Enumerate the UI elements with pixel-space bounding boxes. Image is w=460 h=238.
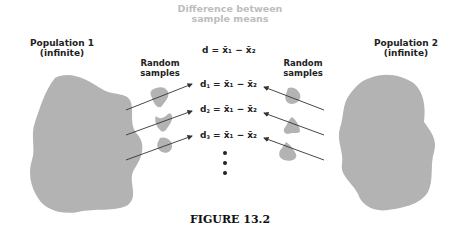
- eq-d1-sub: 1: [206, 83, 209, 89]
- eq-d2-sub: 2: [206, 108, 209, 114]
- sample-left-2: [155, 114, 172, 132]
- equation-d2: d2 = x̄₁ − x̄₂: [200, 104, 257, 114]
- random-samples-left-line2: samples: [125, 68, 195, 78]
- population-2-blob: [339, 75, 435, 211]
- random-samples-right-label: Random samples: [268, 58, 338, 78]
- random-samples-left-line1: Random: [125, 58, 195, 68]
- eq-d1-rest: = x̄₁ − x̄₂: [213, 79, 257, 89]
- ellipsis-dot-3: [223, 171, 227, 175]
- ellipsis-dot-2: [223, 161, 227, 165]
- population-1-type: (infinite): [12, 48, 112, 58]
- random-samples-left-label: Random samples: [125, 58, 195, 78]
- population-1-blob: [30, 75, 142, 213]
- sample-left-3: [157, 137, 172, 152]
- eq-d3-sub: 3: [206, 134, 209, 140]
- header-line-2: sample means: [150, 14, 310, 24]
- figure-caption: FIGURE 13.2: [150, 213, 310, 226]
- eq-d-symbol: d: [202, 45, 208, 55]
- diagram-graphics: [0, 0, 460, 238]
- equation-d: d = x̄₁ − x̄₂: [202, 45, 256, 55]
- population-1-label: Population 1 (infinite): [12, 38, 112, 58]
- eq-d2-rest: = x̄₁ − x̄₂: [213, 104, 257, 114]
- population-2-type: (infinite): [356, 48, 456, 58]
- eq-d3-rest: = x̄₁ − x̄₂: [213, 130, 257, 140]
- arrow-left-2: [126, 111, 192, 135]
- population-1-name: Population 1: [12, 38, 112, 48]
- header-title: Difference between sample means: [150, 4, 310, 24]
- population-2-label: Population 2 (infinite): [356, 38, 456, 58]
- ellipsis-dot-1: [223, 151, 227, 155]
- equation-d1: d1 = x̄₁ − x̄₂: [200, 79, 257, 89]
- equation-d3: d3 = x̄₁ − x̄₂: [200, 130, 257, 140]
- random-samples-right-line2: samples: [268, 68, 338, 78]
- population-2-name: Population 2: [356, 38, 456, 48]
- eq-d-rest: = x̄₁ − x̄₂: [212, 45, 256, 55]
- random-samples-right-line1: Random: [268, 58, 338, 68]
